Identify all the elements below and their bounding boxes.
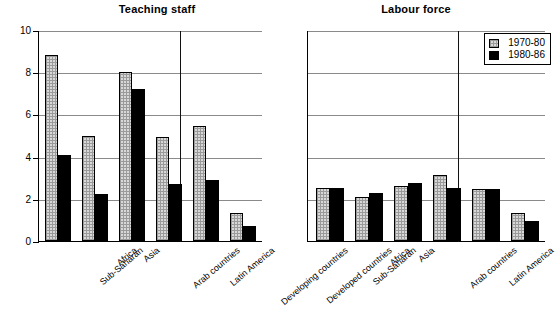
legend-swatch-icon-1980-86: [489, 51, 499, 60]
legend-label-1970-80: 1970-80: [508, 38, 545, 48]
plot-area-teaching-staff: 10 8 6 4 2 0: [38, 31, 262, 242]
figure-two-panel-bar-chart: Teaching staff 10 8 6 4 2 0: [0, 0, 555, 311]
legend-item-1970-80: 1970-80: [489, 37, 545, 49]
bar-group-latin-america: [431, 31, 467, 241]
bar-1970-80: [511, 213, 525, 242]
ytick-10: [33, 31, 39, 32]
ytick-label-2: 2: [25, 195, 31, 205]
bar-1980-86: [206, 180, 219, 241]
bar-1980-86: [169, 184, 182, 241]
legend-label-1980-86: 1980-86: [508, 50, 545, 60]
ytick-0: [33, 242, 39, 243]
bar-1980-86: [95, 194, 108, 242]
legend: 1970-80 1980-86: [484, 33, 551, 65]
bar-1980-86: [525, 221, 539, 241]
panel-title-teaching-staff: Teaching staff: [0, 3, 296, 15]
bar-group-developing-countries: [191, 31, 225, 241]
bar-1980-86: [58, 155, 71, 242]
panel-teaching-staff: Teaching staff 10 8 6 4 2 0: [0, 0, 278, 311]
ytick-label-10: 10: [20, 26, 31, 36]
bar-1970-80: [193, 126, 206, 241]
ytick-8: [33, 73, 39, 74]
legend-swatch-icon-1970-80: [489, 39, 499, 48]
bar-group-sub-saharan-africa: [43, 31, 77, 241]
bar-group-arab-countries: [392, 31, 428, 241]
ytick-4: [33, 158, 39, 159]
ytick-label-0: 0: [25, 237, 31, 247]
bar-group-latin-america: [154, 31, 188, 241]
bar-group-asia: [353, 31, 389, 241]
bar-1980-86: [243, 226, 256, 241]
bar-1970-80: [45, 55, 58, 241]
bar-1980-86: [330, 188, 344, 241]
bar-1980-86: [486, 189, 500, 241]
bar-1970-80: [119, 72, 132, 241]
ytick-6: [33, 115, 39, 116]
bar-1970-80: [230, 213, 243, 242]
bar-group-sub-saharan-africa: [314, 31, 350, 241]
bar-1970-80: [82, 136, 95, 242]
bar-1970-80: [472, 189, 486, 241]
bar-1970-80: [156, 137, 169, 241]
bar-1980-86: [447, 188, 461, 241]
bar-1970-80: [355, 197, 369, 241]
bar-group-arab-countries: [117, 31, 151, 241]
bar-1980-86: [132, 89, 145, 241]
x-label-asia: Asia: [417, 246, 436, 264]
bar-1970-80: [316, 188, 330, 241]
bar-1970-80: [433, 175, 447, 242]
bar-group-developed-countries: [228, 31, 262, 241]
bar-1980-86: [408, 183, 422, 241]
ytick-2: [33, 200, 39, 201]
bar-group-asia: [80, 31, 114, 241]
ytick-label-4: 4: [25, 153, 31, 163]
legend-item-1980-86: 1980-86: [489, 49, 545, 61]
panel-labour-force: Labour force: [277, 0, 555, 311]
bar-1980-86: [369, 193, 383, 242]
x-axis-labels-teaching-staff: Sub-Saharan Africa Asia Arab countries L…: [38, 246, 262, 311]
ytick-label-6: 6: [25, 110, 31, 120]
panel-title-labour-force: Labour force: [277, 3, 555, 15]
x-axis-labels-labour-force: Sub-Saharan Africa Asia Arab countries L…: [307, 246, 545, 311]
bar-1970-80: [394, 186, 408, 241]
ytick-label-8: 8: [25, 68, 31, 78]
x-label-asia: Asia: [142, 246, 161, 264]
